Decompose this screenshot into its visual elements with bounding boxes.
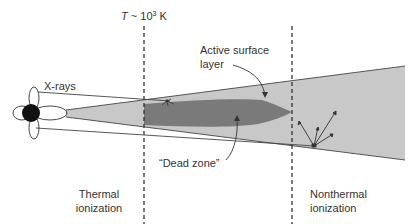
dead-zone-label: “Dead zone” <box>159 156 220 170</box>
active-surface-layer-label: Active surface layer <box>200 43 269 71</box>
xray-ray-top <box>38 92 170 101</box>
thermal-ionization-label: Thermal ionization <box>73 187 125 215</box>
xrays-label: X-rays <box>44 79 76 93</box>
temperature-label: T ~ 103 K <box>121 9 167 23</box>
protoplanetary-disk-diagram: T ~ 103 K X-rays Active surface layer “D… <box>0 0 416 224</box>
star-icon <box>22 104 40 122</box>
nonthermal-ionization-label: Nonthermal ionization <box>310 187 367 215</box>
